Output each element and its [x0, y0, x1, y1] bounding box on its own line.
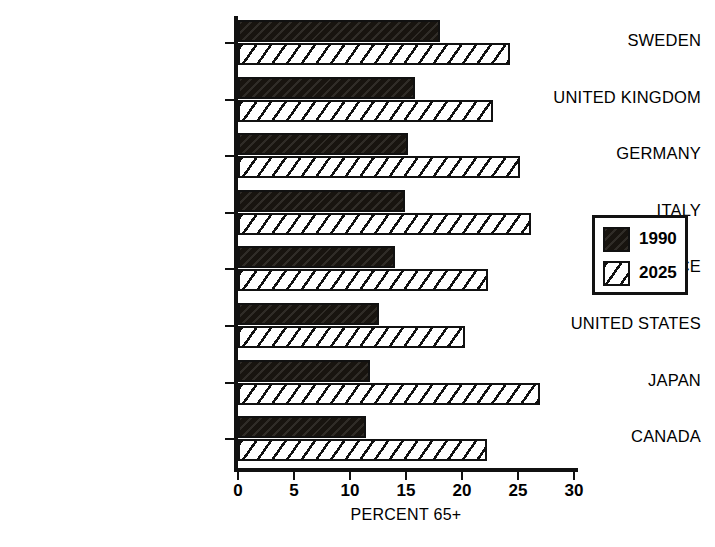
bar-1990-united-states	[238, 303, 379, 325]
legend-label-2025: 2025	[639, 263, 677, 283]
bar-1990-france	[238, 246, 395, 268]
category-tick-sweden	[225, 42, 236, 44]
legend-entry-1990: 1990	[603, 224, 677, 254]
bar-1990-germany	[238, 133, 408, 155]
x-tick-label-15: 15	[386, 481, 426, 501]
x-tick-25	[517, 470, 519, 480]
bar-2025-canada	[238, 439, 487, 461]
x-tick-5	[293, 470, 295, 480]
bar-1990-sweden	[238, 20, 440, 42]
category-tick-italy	[225, 212, 236, 214]
bar-2025-sweden	[238, 43, 510, 65]
bar-1990-japan	[238, 360, 370, 382]
legend: 1990 2025	[592, 215, 688, 295]
bar-2025-france	[238, 269, 488, 291]
bar-2025-italy	[238, 213, 531, 235]
legend-label-1990: 1990	[639, 229, 677, 249]
bar-1990-united-kingdom	[238, 77, 415, 99]
x-tick-label-25: 25	[498, 481, 538, 501]
x-tick-10	[349, 470, 351, 480]
x-tick-label-0: 0	[218, 481, 258, 501]
bar-chart-figure: SWEDENUNITED KINGDOMGERMANYITALYFRANCEUN…	[0, 0, 715, 547]
category-tick-united-states	[225, 325, 236, 327]
category-tick-japan	[225, 382, 236, 384]
bar-1990-italy	[238, 190, 405, 212]
x-tick-0	[237, 470, 239, 480]
category-tick-france	[225, 268, 236, 270]
category-tick-germany	[225, 155, 236, 157]
legend-entry-2025: 2025	[603, 258, 677, 288]
x-tick-30	[573, 470, 575, 480]
solid-black-swatch-icon	[603, 227, 630, 252]
x-tick-label-10: 10	[330, 481, 370, 501]
plot-area	[238, 18, 574, 470]
bar-2025-united-states	[238, 326, 465, 348]
x-tick-label-5: 5	[274, 481, 314, 501]
x-tick-label-30: 30	[554, 481, 594, 501]
x-tick-label-20: 20	[442, 481, 482, 501]
bar-2025-japan	[238, 383, 540, 405]
x-axis-title: PERCENT 65+	[238, 506, 574, 524]
bar-1990-canada	[238, 416, 366, 438]
bar-2025-germany	[238, 156, 520, 178]
category-tick-united-kingdom	[225, 99, 236, 101]
diagonal-hatch-swatch-icon	[603, 261, 630, 286]
x-tick-15	[405, 470, 407, 480]
bar-2025-united-kingdom	[238, 100, 493, 122]
category-tick-canada	[225, 438, 236, 440]
x-tick-20	[461, 470, 463, 480]
